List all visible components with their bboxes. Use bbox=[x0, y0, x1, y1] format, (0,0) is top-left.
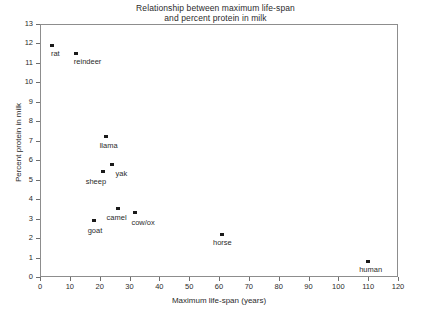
x-tick-mark bbox=[219, 277, 220, 281]
data-point-rat bbox=[50, 44, 54, 47]
y-tick-mark bbox=[36, 82, 40, 83]
data-point-cow-ox bbox=[133, 211, 137, 214]
x-tick-mark bbox=[100, 277, 101, 281]
x-tick-label: 70 bbox=[237, 283, 261, 291]
x-tick-label: 40 bbox=[147, 283, 171, 291]
chart-title-line-1: Relationship between maximum life-span bbox=[0, 3, 431, 13]
x-tick-mark bbox=[249, 277, 250, 281]
data-point-label-rat: rat bbox=[51, 50, 60, 58]
data-point-label-camel: camel bbox=[107, 214, 127, 222]
y-tick-mark bbox=[36, 43, 40, 44]
y-tick-label: 0 bbox=[0, 273, 33, 281]
x-tick-label: 0 bbox=[28, 283, 52, 291]
x-tick-mark bbox=[338, 277, 339, 281]
x-axis-title: Maximum life-span (years) bbox=[40, 296, 398, 305]
y-tick-mark bbox=[36, 219, 40, 220]
data-point-llama bbox=[104, 135, 108, 138]
scatter-chart-figure: Relationship between maximum life-span a… bbox=[0, 0, 431, 315]
data-point-label-human: human bbox=[359, 266, 382, 274]
y-tick-mark bbox=[36, 24, 40, 25]
y-tick-label: 12 bbox=[0, 39, 33, 47]
chart-title-line-2: and percent protein in milk bbox=[0, 13, 431, 23]
y-tick-mark bbox=[36, 199, 40, 200]
x-tick-label: 90 bbox=[297, 283, 321, 291]
x-tick-mark bbox=[40, 277, 41, 281]
data-point-label-sheep: sheep bbox=[86, 178, 106, 186]
data-point-reindeer bbox=[74, 52, 78, 55]
data-point-label-yak: yak bbox=[116, 170, 128, 178]
y-tick-mark bbox=[36, 180, 40, 181]
x-tick-label: 120 bbox=[386, 283, 410, 291]
y-axis-title: Percent protein in milk bbox=[14, 63, 23, 223]
chart-title: Relationship between maximum life-span a… bbox=[0, 3, 431, 23]
x-tick-mark bbox=[309, 277, 310, 281]
y-tick-label: 13 bbox=[0, 20, 33, 28]
x-tick-mark bbox=[398, 277, 399, 281]
x-tick-label: 10 bbox=[58, 283, 82, 291]
x-tick-mark bbox=[159, 277, 160, 281]
data-point-label-horse: horse bbox=[213, 239, 232, 247]
x-tick-mark bbox=[368, 277, 369, 281]
data-point-label-cow-ox: cow/ox bbox=[131, 219, 154, 227]
x-tick-label: 60 bbox=[207, 283, 231, 291]
x-tick-mark bbox=[279, 277, 280, 281]
y-tick-mark bbox=[36, 160, 40, 161]
data-point-label-goat: goat bbox=[88, 227, 103, 235]
y-tick-label: 2 bbox=[0, 234, 33, 242]
data-point-human bbox=[366, 260, 370, 263]
y-tick-mark bbox=[36, 258, 40, 259]
data-point-yak bbox=[110, 163, 114, 166]
y-tick-mark bbox=[36, 63, 40, 64]
data-point-camel bbox=[116, 207, 120, 210]
x-tick-label: 80 bbox=[267, 283, 291, 291]
y-tick-mark bbox=[36, 121, 40, 122]
y-tick-mark bbox=[36, 238, 40, 239]
y-tick-mark bbox=[36, 102, 40, 103]
x-tick-mark bbox=[189, 277, 190, 281]
data-point-goat bbox=[92, 219, 96, 222]
data-point-sheep bbox=[101, 170, 105, 173]
data-point-label-llama: llama bbox=[100, 142, 118, 150]
x-tick-label: 100 bbox=[326, 283, 350, 291]
x-tick-label: 50 bbox=[177, 283, 201, 291]
x-tick-label: 20 bbox=[88, 283, 112, 291]
x-tick-mark bbox=[130, 277, 131, 281]
x-tick-label: 110 bbox=[356, 283, 380, 291]
data-point-label-reindeer: reindeer bbox=[74, 58, 102, 66]
y-tick-label: 1 bbox=[0, 254, 33, 262]
data-point-horse bbox=[220, 233, 224, 236]
x-tick-label: 30 bbox=[118, 283, 142, 291]
x-tick-mark bbox=[70, 277, 71, 281]
y-tick-mark bbox=[36, 141, 40, 142]
